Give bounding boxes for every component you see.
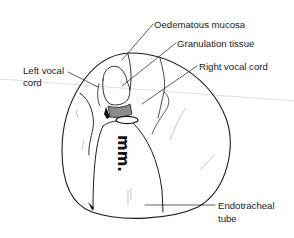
shading-strokes	[76, 110, 214, 205]
endotracheal-tube-right-edge	[133, 123, 163, 212]
tube-lumen-opening	[116, 116, 138, 123]
granulation-tissue	[108, 104, 132, 117]
larynx-outline	[62, 53, 230, 218]
right-vocal-cord-edge	[158, 58, 165, 118]
endotracheal-tube-left-edge	[93, 126, 103, 210]
tube-marking-text: mm.	[114, 135, 132, 172]
left-vocal-cord-outline	[80, 93, 93, 155]
leader-left-vocal-cord	[68, 72, 98, 87]
oedematous-mucosa-bulb	[103, 66, 130, 105]
leader-right-vocal-cord	[142, 66, 197, 104]
label-oedematous-mucosa: Oedematous mucosa	[154, 19, 246, 30]
label-endotracheal-tube-1: Endotracheal	[218, 200, 275, 211]
tube-mm-marking: mm.	[114, 135, 132, 172]
label-left-vocal-cord-1: Left vocal	[23, 65, 64, 76]
label-right-vocal-cord: Right vocal cord	[199, 61, 268, 72]
scan-artifact-line	[0, 79, 294, 101]
larynx-diagram: mm. Oedematous mucosa Granulation tissue…	[0, 0, 294, 238]
right-shadow	[170, 108, 186, 140]
label-endotracheal-tube-2: tube	[218, 213, 237, 224]
label-left-vocal-cord-2: cord	[23, 77, 42, 88]
right-vocal-cord-fold	[152, 92, 169, 134]
label-granulation-tissue: Granulation tissue	[177, 38, 254, 49]
